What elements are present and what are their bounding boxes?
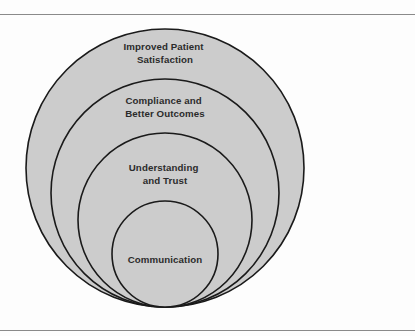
nested-circles-diagram: Improved Patient Satisfaction Compliance… (0, 16, 415, 326)
bottom-horizontal-rule (0, 330, 415, 331)
ring-label-third-line2: and Trust (143, 175, 188, 186)
ring-label-second-line2: Better Outcomes (125, 108, 205, 119)
ring-label-second-line1: Compliance and (125, 95, 201, 106)
page-canvas: Improved Patient Satisfaction Compliance… (0, 0, 415, 336)
top-horizontal-rule (0, 14, 415, 15)
ring-label-outermost-line1: Improved Patient (124, 41, 205, 52)
ring-label-innermost: Communication (128, 254, 203, 265)
ring-label-innermost-line1: Communication (128, 254, 203, 265)
ring-label-third-line1: Understanding (129, 162, 199, 173)
ring-label-outermost-line2: Satisfaction (137, 54, 193, 65)
